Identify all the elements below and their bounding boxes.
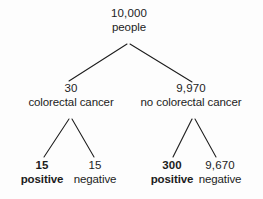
branch-nocancer-to-positive (173, 119, 192, 157)
node-cancer-positive-label: positive (21, 173, 64, 187)
branch-cancer-to-positive (44, 119, 69, 157)
branch-nocancer-to-negative (195, 119, 216, 157)
node-nocancer-label: no colorectal cancer (141, 96, 242, 110)
node-cancer-positive-count: 15 (21, 159, 64, 173)
node-cancer-negative-count: 15 (74, 159, 117, 173)
node-no-cancer-positive-label: positive (151, 173, 194, 187)
node-cancer-negative-label: negative (74, 173, 117, 187)
node-cancer-negative: 15 negative (74, 159, 117, 186)
node-no-cancer-negative: 9,670 negative (199, 159, 242, 186)
probability-tree-diagram: 10,000 people 30 colorectal cancer 9,970… (0, 0, 263, 199)
node-root-population: 10,000 people (111, 7, 147, 34)
branch-cancer-to-negative (72, 119, 94, 157)
node-root-label: people (111, 21, 147, 35)
node-cancer-positive: 15 positive (21, 159, 64, 186)
branch-root-to-nocancer (130, 44, 192, 82)
node-no-cancer-positive: 300 positive (151, 159, 194, 186)
node-cancer-count: 30 (28, 82, 113, 96)
node-root-count: 10,000 (111, 7, 147, 21)
node-no-cancer-positive-count: 300 (151, 159, 194, 173)
node-nocancer-count: 9,970 (141, 82, 242, 96)
node-no-colorectal-cancer: 9,970 no colorectal cancer (141, 82, 242, 109)
node-no-cancer-negative-count: 9,670 (199, 159, 242, 173)
node-no-cancer-negative-label: negative (199, 173, 242, 187)
branch-root-to-cancer (69, 44, 127, 81)
node-colorectal-cancer: 30 colorectal cancer (28, 82, 113, 109)
node-cancer-label: colorectal cancer (28, 96, 113, 110)
